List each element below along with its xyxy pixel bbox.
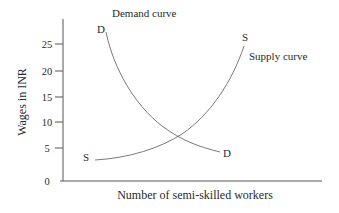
tick-label-15: 15 (42, 92, 53, 103)
supply-start-label: S (83, 151, 89, 163)
tick-label-10: 10 (42, 117, 53, 128)
demand-supply-diagram: 25 20 15 10 5 0 Wages in INR Number of s… (0, 0, 339, 213)
demand-start-label: D (97, 23, 105, 35)
tick-label-25: 25 (42, 39, 53, 50)
x-axis-title: Number of semi-skilled workers (117, 188, 273, 202)
y-ticks: 25 20 15 10 5 0 (42, 39, 63, 187)
demand-end-label: D (223, 147, 231, 159)
supply-end-label: S (242, 31, 248, 43)
tick-label-0: 0 (44, 176, 49, 187)
y-axis-title: Wages in INR (15, 68, 29, 136)
demand-curve (106, 32, 220, 152)
tick-label-20: 20 (42, 66, 53, 77)
demand-curve-title: Demand curve (112, 7, 177, 19)
supply-curve-title: Supply curve (249, 50, 307, 62)
tick-label-5: 5 (44, 143, 49, 154)
supply-curve (95, 46, 244, 160)
